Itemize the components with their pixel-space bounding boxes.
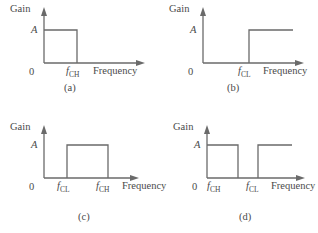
xtick-fch: fCH (66, 66, 79, 79)
response-curve-bandstop-low (207, 145, 238, 178)
y-axis-arrowhead (41, 7, 47, 16)
xtick-fcl: fCL (238, 66, 251, 79)
panel-d-bandstop: Gain A 0 fCH fCL Frequency (d) (159, 116, 318, 232)
panel-b-highpass: Gain A 0 fCL Frequency (b) (159, 0, 318, 116)
x-axis-label: Frequency (93, 66, 137, 77)
xtick-fcl-sub: CL (249, 185, 259, 194)
panel-a-lowpass: Gain A 0 fCH Frequency (a) (0, 0, 159, 116)
response-curve-highpass (249, 30, 293, 63)
response-curve-bandstop-high (258, 145, 292, 178)
x-axis-arrowhead (136, 60, 145, 66)
filter-response-figure: Gain A 0 fCH Frequency (a) Gain A 0 fCL … (0, 0, 318, 233)
origin-label: 0 (192, 182, 197, 193)
xtick-fcl: fCL (246, 181, 259, 194)
y-axis-label: Gain (10, 122, 30, 133)
y-axis-arrowhead (41, 125, 47, 134)
xtick-fcl-sub: CL (241, 70, 251, 79)
panel-caption-c: (c) (78, 212, 90, 223)
x-axis-label: Frequency (271, 181, 315, 192)
y-axis-label: Gain (169, 4, 189, 15)
origin-label: 0 (29, 67, 34, 78)
panel-c-bandpass: Gain A 0 fCL fCH Frequency (c) (0, 116, 159, 232)
xtick-fch: fCH (96, 181, 109, 194)
amplitude-label: A (190, 25, 196, 36)
panel-caption-b: (b) (227, 83, 239, 94)
y-axis-arrowhead (200, 7, 206, 16)
response-curve-bandpass (67, 145, 108, 178)
xtick-fch-sub: CH (69, 70, 79, 79)
response-curve-lowpass (44, 30, 77, 63)
x-axis-label: Frequency (263, 66, 307, 77)
amplitude-label: A (31, 25, 37, 36)
xtick-fch-sub: CH (99, 185, 109, 194)
panel-b-plot (159, 0, 318, 116)
amplitude-label: A (194, 140, 200, 151)
panel-caption-d: (d) (239, 212, 251, 223)
xtick-fcl-sub: CL (60, 185, 70, 194)
origin-label: 0 (188, 67, 193, 78)
xtick-fch-sub: CH (210, 185, 220, 194)
xtick-fcl: fCL (57, 181, 70, 194)
xtick-fch: fCH (207, 181, 220, 194)
amplitude-label: A (31, 140, 37, 151)
panel-a-plot (0, 0, 159, 116)
origin-label: 0 (29, 182, 34, 193)
y-axis-label: Gain (173, 122, 193, 133)
y-axis-label: Gain (10, 4, 30, 15)
panel-caption-a: (a) (64, 83, 76, 94)
y-axis-arrowhead (204, 125, 210, 134)
